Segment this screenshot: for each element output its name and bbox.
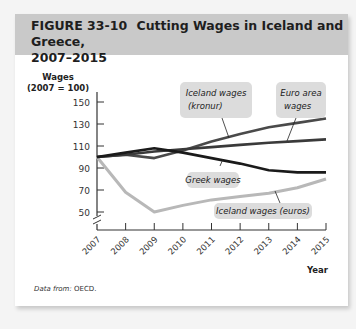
series-line-greek-wages: [97, 148, 326, 172]
y-axis-label-line2: (2007 = 100): [27, 83, 89, 93]
callout-label: (kronur): [188, 101, 223, 111]
source-text: OECD.: [74, 285, 96, 293]
x-tick-label: 2014: [280, 234, 302, 256]
y-tick-label: 70: [79, 186, 91, 196]
x-tick-label: 2008: [109, 234, 131, 256]
y-tick-label: 130: [73, 120, 90, 130]
y-tick-label: 50: [79, 208, 91, 218]
callout-label: Iceland wages: [186, 88, 247, 98]
source-prefix: Data from:: [34, 285, 72, 293]
source-note: Data from: OECD.: [34, 285, 96, 293]
callout-label: wages: [284, 101, 312, 111]
x-tick-label: 2009: [137, 234, 159, 256]
y-tick-label: 150: [73, 98, 90, 108]
x-tick-label: 2015: [309, 234, 331, 256]
x-tick-label: 2007: [80, 234, 102, 256]
x-tick-label: 2010: [166, 234, 188, 256]
x-axis-label: Year: [306, 265, 329, 275]
callout-label: Euro area: [280, 88, 321, 98]
callout-leader: [287, 118, 296, 141]
callout-label: Greek wages: [185, 175, 241, 185]
y-tick-label: 90: [79, 164, 91, 174]
line-chart: Wages(2007 = 100)50709011013015020072008…: [0, 0, 356, 329]
axis-break-icon: [93, 215, 101, 224]
x-tick-label: 2012: [223, 234, 245, 256]
callout-leader: [222, 118, 229, 138]
x-tick-label: 2013: [252, 234, 274, 256]
callout-label: Iceland wages (euros): [216, 206, 310, 216]
y-tick-label: 110: [73, 142, 90, 152]
y-axis-label-line1: Wages: [42, 72, 74, 82]
x-tick-label: 2011: [195, 234, 217, 256]
